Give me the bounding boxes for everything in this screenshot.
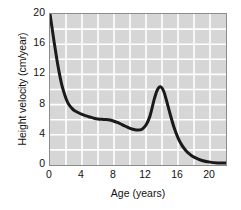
y-tick-label-16: 16 bbox=[21, 37, 45, 48]
x-axis-title: Age (years) bbox=[49, 187, 227, 199]
plot-area bbox=[49, 13, 227, 166]
height-velocity-curve bbox=[50, 14, 226, 163]
y-tick-label-8: 8 bbox=[21, 98, 45, 109]
x-tick-label-0: 0 bbox=[39, 169, 59, 180]
x-tick-label-12: 12 bbox=[135, 169, 155, 180]
x-tick-label-16: 16 bbox=[167, 169, 187, 180]
gridlines bbox=[50, 14, 226, 165]
x-tick-label-8: 8 bbox=[103, 169, 123, 180]
y-tick-label-20: 20 bbox=[21, 7, 45, 18]
y-axis-title: Height velocity (cm/year) bbox=[14, 6, 30, 172]
x-tick-label-20: 20 bbox=[199, 169, 219, 180]
growth-velocity-chart: Height velocity (cm/year) Age (years) 04… bbox=[0, 0, 241, 210]
y-tick-label-4: 4 bbox=[21, 128, 45, 139]
y-tick-label-12: 12 bbox=[21, 67, 45, 78]
y-tick-label-0: 0 bbox=[21, 158, 45, 169]
x-tick-label-4: 4 bbox=[71, 169, 91, 180]
plot-svg bbox=[50, 14, 226, 165]
